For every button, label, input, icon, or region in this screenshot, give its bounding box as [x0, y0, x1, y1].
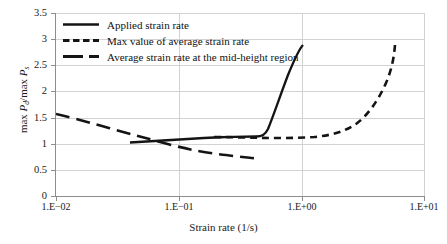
y-axis-title-p-static: P — [17, 69, 29, 76]
legend-label-applied-strain-rate: Applied strain rate — [107, 19, 189, 31]
legend-item-applied-strain-rate: Applied strain rate — [62, 17, 299, 32]
y-axis-title: max Pd/max Ps — [17, 20, 31, 180]
legend-label-average-strain-rate-mid-height: Average strain rate at the mid-height re… — [107, 51, 299, 63]
y-axis-title-slash: /max — [17, 76, 29, 101]
x-tick-label-1e-02: 1.E−02 — [21, 201, 91, 212]
y-axis-title-sub-s: s — [22, 67, 31, 70]
legend-item-max-value-average-strain-rate: Max value of average strain rate — [62, 33, 299, 48]
chart-legend: Applied strain rate Max value of average… — [62, 17, 299, 64]
legend-label-max-value-average-strain-rate: Max value of average strain rate — [107, 35, 249, 47]
y-tick-label-0: 0 — [0, 191, 47, 201]
chart-container: 3.5 3 2.5 2 1.5 1 0.5 0 1.E−02 1.E−01 1.… — [0, 0, 447, 244]
x-axis-line — [56, 196, 425, 197]
x-tick-label-1e01: 1.E+01 — [389, 201, 447, 212]
legend-item-average-strain-rate-mid-height: Average strain rate at the mid-height re… — [62, 49, 299, 64]
x-tick-label-1e-01: 1.E−01 — [144, 201, 214, 212]
legend-marker-long-dash-icon — [62, 51, 100, 62]
y-tick-label-3.5: 3.5 — [0, 8, 47, 18]
y-axis-title-lead: max — [17, 111, 29, 133]
y-axis-title-sub-d: d — [22, 101, 31, 105]
y-axis-title-p-dynamic: P — [17, 105, 29, 112]
x-tick-label-1e00: 1.E+00 — [267, 201, 337, 212]
legend-marker-short-dash-icon — [62, 35, 100, 46]
x-axis-title: Strain rate (1/s) — [0, 221, 447, 233]
legend-marker-solid-icon — [62, 19, 100, 30]
gridline-x-1e01 — [424, 13, 425, 196]
